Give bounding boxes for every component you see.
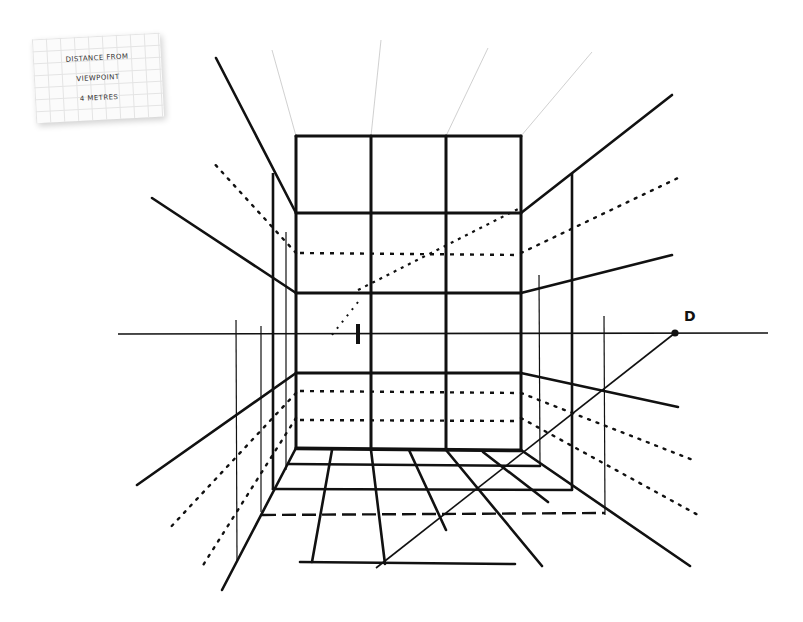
horizon-line	[118, 333, 768, 334]
floor-dashed	[262, 513, 605, 515]
distance-point-label: D	[684, 308, 696, 324]
distance-note-card: DISTANCE FROM VIEWPOINT 4 METRES	[32, 33, 164, 124]
receding-solid-lines	[137, 58, 690, 590]
note-line-3: 4 METRES	[35, 91, 163, 106]
distance-point-dot	[671, 329, 678, 336]
note-line-1: DISTANCE FROM	[33, 51, 161, 66]
back-wall-grid	[296, 136, 521, 450]
dotted-back-horizontals	[300, 253, 520, 421]
dotted-receding-lines	[168, 160, 698, 570]
construction-lines	[272, 40, 592, 136]
side-wall-verticals	[273, 173, 572, 490]
vanishing-point-marker	[356, 324, 360, 344]
thin-verticals	[236, 232, 605, 560]
floor-grid	[273, 449, 572, 566]
note-line-2: VIEWPOINT	[34, 71, 162, 86]
